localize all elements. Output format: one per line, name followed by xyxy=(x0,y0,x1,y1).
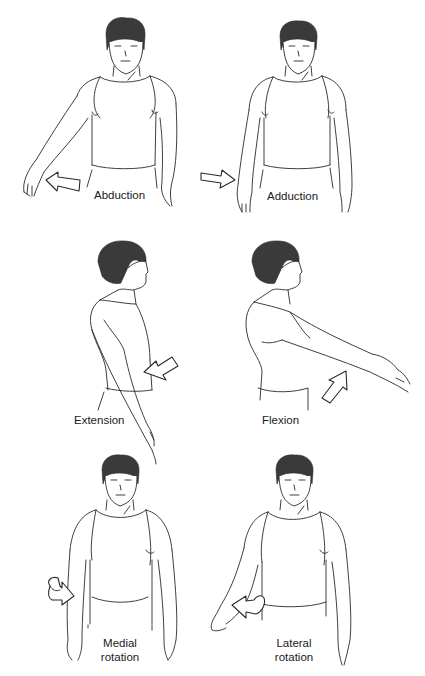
right-arm xyxy=(158,550,177,660)
flexion-arrow-icon xyxy=(322,371,347,403)
left-arm xyxy=(211,548,258,631)
figure-medial-rotation xyxy=(49,455,177,660)
label-abduction: Abduction xyxy=(94,188,145,202)
head xyxy=(283,42,315,74)
right-arm xyxy=(160,104,177,206)
label-adduction: Adduction xyxy=(267,189,318,203)
head xyxy=(279,476,311,506)
figure-adduction xyxy=(201,21,352,212)
label-extension: Extension xyxy=(74,413,125,427)
medial-rotation-arrow-icon xyxy=(49,577,74,605)
right-arm xyxy=(332,550,351,665)
label-flexion: Flexion xyxy=(262,413,299,427)
label-lateral-rotation: Lateral rotation xyxy=(270,636,318,664)
figure-abduction xyxy=(24,18,177,206)
torso xyxy=(77,76,176,118)
torso xyxy=(249,76,346,118)
abduction-arrow-icon xyxy=(46,172,80,191)
left-arm xyxy=(237,110,260,212)
extension-arrow-icon xyxy=(144,357,178,380)
neck xyxy=(254,290,290,304)
torso xyxy=(244,512,346,565)
torso xyxy=(90,300,152,391)
torso xyxy=(70,510,172,565)
figure-flexion xyxy=(246,241,410,410)
shoulder-movements-illustration xyxy=(0,0,425,676)
left-arm xyxy=(67,550,86,660)
right-arm xyxy=(334,110,352,212)
label-medial-rotation: Medial rotation xyxy=(100,636,140,664)
figure-lateral-rotation xyxy=(211,455,351,665)
head xyxy=(105,476,137,506)
adduction-arrow-icon xyxy=(201,170,235,188)
arm xyxy=(92,320,156,464)
figure-extension xyxy=(90,241,178,464)
